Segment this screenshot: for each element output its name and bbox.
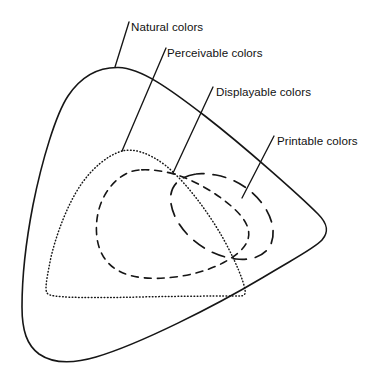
leader-line-displayable (173, 87, 213, 173)
label-displayable-colors: Displayable colors (216, 85, 311, 98)
leader-line-perceivable (122, 48, 166, 151)
leader-line-natural (115, 22, 129, 67)
gamut-diagram-svg: Natural colors Perceivable colors Displa… (0, 0, 385, 388)
label-perceivable-colors: Perceivable colors (167, 46, 263, 59)
leader-line-printable (242, 136, 274, 198)
region-displayable-colors (96, 170, 248, 279)
label-printable-colors: Printable colors (277, 134, 358, 147)
label-natural-colors: Natural colors (131, 20, 203, 33)
gamut-diagram: Natural colors Perceivable colors Displa… (0, 0, 385, 388)
region-perceivable-colors (46, 150, 245, 297)
